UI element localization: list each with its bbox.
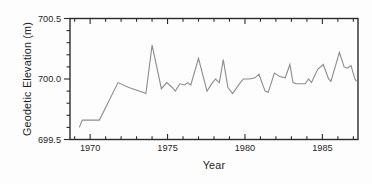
x-tick-label: 1970: [80, 143, 100, 153]
elevation-time-series-figure: 1970197519801985699.5700.0700.5Geodetic …: [0, 0, 372, 184]
y-tick-label: 700.0: [38, 74, 61, 84]
plot-frame: [70, 19, 358, 140]
x-tick-label: 1980: [235, 143, 255, 153]
y-tick-label: 699.5: [38, 135, 61, 145]
y-axis-title: Geodetic Elevation (m): [21, 22, 33, 136]
x-tick-label: 1975: [157, 143, 177, 153]
x-tick-label: 1985: [312, 143, 332, 153]
data-line: [79, 45, 356, 127]
y-tick-label: 700.5: [38, 14, 61, 24]
x-axis-title: Year: [203, 159, 226, 171]
elevation-chart: 1970197519801985699.5700.0700.5Geodetic …: [0, 0, 372, 184]
